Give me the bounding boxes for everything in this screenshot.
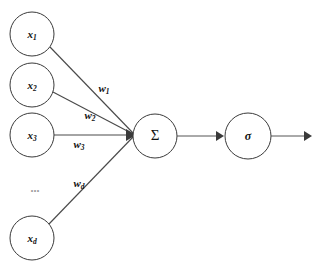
edge-group [49,47,133,224]
activation-input-arrowhead [216,131,224,141]
activation-label: σ [245,129,252,143]
neuron-diagram-svg: x1 x2 x3 xd ... w1 w2 w3 wd Σ [0,0,316,269]
weight-label-w1: w1 [98,82,109,96]
weight-label-w3: w3 [73,138,84,152]
diagram-canvas: x1 x2 x3 xd ... w1 w2 w3 wd Σ [0,0,316,269]
ellipsis-indicator: ... [31,181,40,195]
edge-xd-to-sum [49,137,133,224]
output-arrowhead [304,131,312,141]
summation-label: Σ [151,127,160,143]
weight-label-w2: w2 [84,109,95,123]
weight-label-wd: wd [73,177,84,191]
